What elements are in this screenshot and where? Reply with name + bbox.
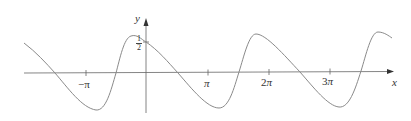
tick-label-2pi-pi: π — [267, 76, 273, 88]
tick-label-neg-pi: −π — [78, 78, 90, 90]
half-denominator: 2 — [137, 43, 141, 52]
x-axis — [24, 72, 389, 74]
tick-label-2pi: 2π — [261, 76, 272, 88]
function-graph — [0, 0, 411, 121]
tick-label-3pi-pi: π — [328, 75, 334, 87]
tick-label-3pi: 3π — [322, 75, 333, 87]
y-axis-arrow-icon — [144, 18, 149, 26]
y-axis-label: y — [135, 12, 140, 24]
tick-label-half: 1 2 — [135, 35, 143, 52]
half-numerator: 1 — [137, 34, 141, 43]
x-axis-label: x — [392, 76, 397, 88]
x-axis-arrow-icon — [387, 69, 394, 74]
tick-label-pi: π — [204, 77, 210, 89]
